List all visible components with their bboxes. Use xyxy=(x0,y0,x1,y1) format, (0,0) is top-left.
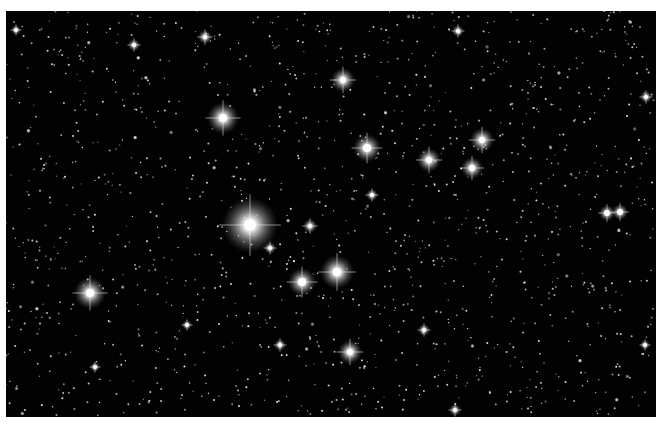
star-field-image xyxy=(6,11,656,417)
star-field-canvas xyxy=(6,11,656,417)
